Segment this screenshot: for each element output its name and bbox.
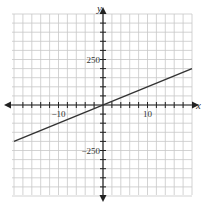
y-tick-label: 250 [87,55,101,65]
x-axis-left-arrow-icon [4,102,11,109]
axes [4,7,199,202]
y-axis-down-arrow-icon [100,195,107,202]
x-tick-label: −10 [51,109,66,119]
x-tick-label: 10 [143,109,153,119]
x-axis-label: x [195,99,201,111]
coordinate-plane-chart: −1010250−250 x y [0,0,205,202]
chart-svg: −1010250−250 x y [0,0,205,202]
y-axis-label: y [96,2,102,14]
y-tick-label: −250 [81,146,100,156]
